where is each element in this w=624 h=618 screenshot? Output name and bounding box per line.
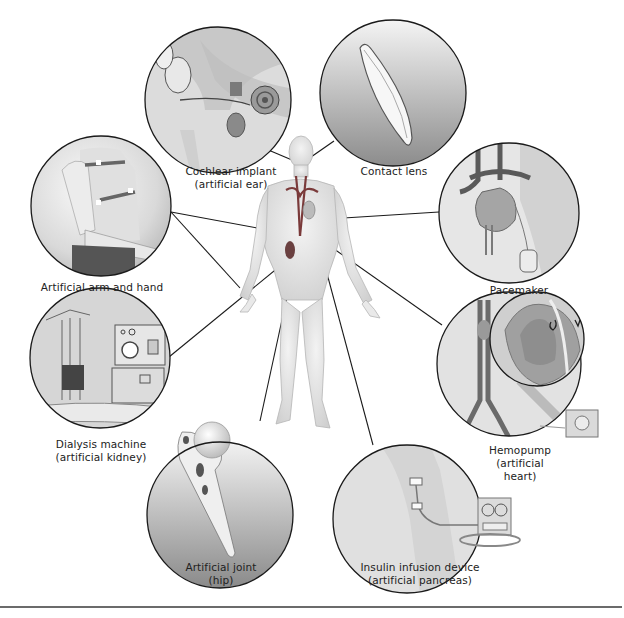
- kidney-organ: [285, 241, 295, 259]
- pacemaker-illustration: [435, 140, 585, 290]
- label-hemopump: Hemopump (artificial heart): [489, 444, 551, 483]
- label-artificial-joint: Artificial joint (hip): [185, 561, 256, 587]
- cochlear-implant-illustration: [140, 20, 300, 180]
- bottom-divider: [0, 606, 622, 608]
- label-dialysis-machine: Dialysis machine (artificial kidney): [56, 438, 147, 464]
- label-pacemaker: Pacemaker: [490, 284, 549, 297]
- heart-organ: [303, 201, 315, 219]
- label-insulin-device: Insulin infusion device (artificial panc…: [360, 561, 479, 587]
- diagram-canvas: Cochlear implant (artificial ear) Contac…: [0, 0, 624, 618]
- dialysis-illustration: [30, 288, 180, 438]
- label-artificial-arm: Artificial arm and hand: [41, 281, 163, 294]
- artificial-arm-illustration: [30, 136, 180, 290]
- label-cochlear-implant: Cochlear implant (artificial ear): [185, 165, 276, 191]
- contact-lens-illustration: [320, 20, 466, 166]
- diagram-artwork: [0, 0, 624, 618]
- label-contact-lens: Contact lens: [361, 165, 428, 178]
